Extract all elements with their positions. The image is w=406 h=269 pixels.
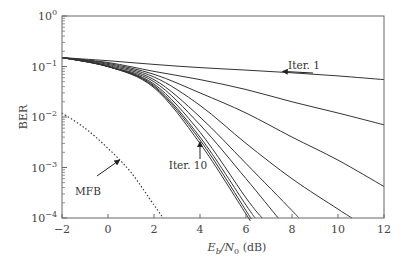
x-tick-label: 10: [331, 223, 345, 236]
annotation-iter-10: Iter. 10: [169, 142, 207, 171]
annotation-mfb: MFB: [75, 160, 119, 197]
y-tick-label: 100: [38, 8, 57, 23]
x-axis-label: Eb/N0 (dB): [207, 241, 267, 256]
plot-frame: [62, 16, 384, 218]
y-tick-label: 10−2: [31, 109, 57, 124]
x-tick-label: 2: [151, 223, 158, 236]
svg-text:Iter. 10: Iter. 10: [169, 159, 207, 171]
x-tick-label: 8: [289, 223, 296, 236]
ber-chart: −202468101210010−110−210−310−4Eb/N0 (dB)…: [0, 0, 406, 269]
x-tick-label: 6: [243, 223, 250, 236]
svg-text:MFB: MFB: [75, 185, 101, 197]
annotations: Iter. 1Iter. 10MFB: [75, 59, 320, 197]
axes: −202468101210010−110−210−310−4Eb/N0 (dB)…: [17, 8, 391, 256]
series-line-iter-1: [62, 58, 384, 80]
ber-curves: [62, 58, 384, 221]
x-tick-label: 0: [105, 223, 112, 236]
x-tick-label: 12: [377, 223, 391, 236]
y-tick-label: 10−3: [31, 160, 57, 175]
x-tick-label: 4: [197, 223, 204, 236]
y-tick-label: 10−1: [31, 59, 57, 74]
svg-text:Iter. 1: Iter. 1: [288, 59, 320, 71]
y-axis-label: BER: [17, 104, 30, 129]
series-line-iter-4: [62, 58, 352, 218]
x-tick-label: −2: [54, 223, 70, 236]
annotation-iter-1: Iter. 1: [283, 59, 320, 73]
arrow-icon: [97, 160, 120, 176]
